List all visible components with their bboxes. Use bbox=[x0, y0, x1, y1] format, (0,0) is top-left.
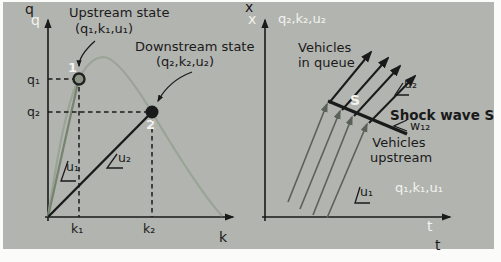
state2-number: 2 bbox=[146, 117, 155, 132]
w12-label: w₁₂ bbox=[410, 118, 430, 133]
q2-tick-label: q₂ bbox=[27, 104, 40, 119]
downstream-state-title: Downstream state bbox=[135, 39, 254, 54]
downstream-state-tuple: (q₂,k₂,u₂) bbox=[156, 54, 214, 69]
k2-tick-label: k₂ bbox=[143, 221, 155, 236]
k1-tick-label: k₁ bbox=[71, 221, 83, 236]
upstream-state-point bbox=[74, 74, 85, 85]
state2-region-label: q₂,k₂,u₂ bbox=[278, 11, 326, 26]
shock-point-label: S bbox=[350, 93, 360, 108]
vehicles-upstream-label-line1: Vehicles bbox=[370, 135, 428, 150]
q1-tick-label: q₁ bbox=[27, 72, 40, 87]
t-axis-label-ghost: t bbox=[427, 219, 433, 234]
u2-label-right: u₂ bbox=[404, 76, 417, 91]
traffic-shockwave-figure: q q k Upstream state (q₁,k₁,u₁) Downstre… bbox=[0, 0, 501, 262]
shock-wave-label: Shock wave S bbox=[390, 108, 494, 123]
vehicles-upstream-label-line2: upstream bbox=[370, 150, 428, 165]
state1-region-label: q₁,k₁,u₁ bbox=[395, 180, 443, 195]
state1-number: 1 bbox=[68, 60, 77, 75]
u1-label-right: u₁ bbox=[360, 184, 373, 199]
u1-label-left: u₁ bbox=[66, 159, 79, 174]
x-axis-label-ghost: x bbox=[248, 12, 256, 27]
t-axis-label: t bbox=[435, 238, 441, 253]
u2-label-left: u₂ bbox=[118, 150, 131, 165]
upstream-state-title: Upstream state bbox=[69, 5, 169, 20]
q-axis-label-ghost: q bbox=[31, 13, 40, 28]
upstream-state-tuple: (q₁,k₁,u₁) bbox=[75, 21, 133, 36]
vehicles-in-queue-label-line2: in queue bbox=[298, 55, 355, 70]
k-axis-label: k bbox=[219, 230, 227, 245]
vehicles-in-queue-label-line1: Vehicles bbox=[298, 40, 351, 55]
